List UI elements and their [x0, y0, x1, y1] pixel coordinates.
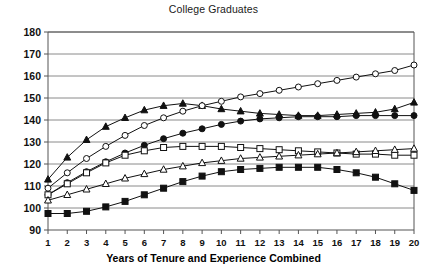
x-tick-label: 9 [199, 237, 204, 248]
x-tick-label: 3 [84, 237, 89, 248]
data-series-layer [45, 62, 418, 217]
x-tick-label: 6 [142, 237, 147, 248]
data-point-marker [411, 152, 417, 158]
data-point-marker [180, 179, 186, 185]
series-filled-triangle [45, 99, 418, 182]
data-point-marker [392, 181, 398, 187]
data-point-marker [102, 123, 109, 129]
data-point-marker [353, 113, 359, 119]
data-point-marker [45, 211, 51, 217]
data-point-marker [199, 126, 205, 132]
data-point-marker [84, 208, 90, 214]
data-point-marker [257, 116, 263, 122]
data-point-marker [372, 174, 378, 180]
y-tick-label: 170 [23, 48, 41, 60]
data-point-marker [372, 113, 378, 119]
data-point-marker [141, 192, 147, 198]
data-point-marker [257, 165, 263, 171]
y-tick-label: 140 [23, 114, 41, 126]
data-point-marker [161, 115, 167, 121]
data-point-marker [295, 114, 301, 120]
data-point-marker [199, 173, 205, 179]
data-point-marker [45, 185, 51, 191]
x-tick-label: 16 [332, 237, 343, 248]
data-point-marker [122, 132, 128, 138]
x-tick-label: 7 [161, 237, 166, 248]
data-point-marker [179, 100, 186, 106]
data-point-marker [84, 170, 90, 176]
data-point-marker [392, 113, 398, 119]
data-point-marker [141, 148, 147, 154]
data-point-marker [122, 198, 128, 204]
data-point-marker [103, 143, 109, 149]
y-tick-label: 160 [23, 70, 41, 82]
data-point-marker [64, 181, 70, 187]
data-point-marker [103, 160, 109, 166]
data-point-marker [180, 143, 186, 149]
data-point-marker [161, 145, 167, 151]
x-tick-label: 13 [274, 237, 285, 248]
line-chart-plot: 90100110120130140150160170180 1234567891… [0, 0, 427, 267]
data-point-marker [411, 187, 417, 193]
data-point-marker [372, 71, 378, 77]
y-tick-label: 120 [23, 158, 41, 170]
data-point-marker [411, 62, 417, 68]
x-tick-label: 19 [389, 237, 400, 248]
data-point-marker [334, 77, 340, 83]
data-point-marker [238, 94, 244, 100]
x-tick-label: 10 [216, 237, 227, 248]
data-point-marker [218, 169, 224, 175]
data-point-marker [276, 115, 282, 121]
data-point-marker [334, 167, 340, 173]
x-tick-label: 18 [370, 237, 381, 248]
data-point-marker [353, 170, 359, 176]
y-tick-label: 130 [23, 136, 41, 148]
data-point-marker [411, 113, 417, 119]
y-tick-label: 110 [24, 180, 41, 192]
data-point-marker [315, 114, 321, 120]
y-tick-label: 100 [23, 202, 41, 214]
data-point-marker [411, 99, 418, 105]
x-tick-label: 8 [180, 237, 185, 248]
data-point-marker [103, 204, 109, 210]
data-point-marker [276, 164, 282, 170]
x-tick-label: 4 [103, 237, 109, 248]
data-point-marker [180, 130, 186, 136]
y-tick-label: 180 [23, 26, 41, 38]
data-point-marker [218, 121, 224, 127]
data-point-marker [238, 118, 244, 124]
data-point-marker [161, 185, 167, 191]
data-point-marker [257, 91, 263, 97]
x-tick-label: 12 [255, 237, 266, 248]
y-axis-tick-labels: 90100110120130140150160170180 [23, 26, 48, 236]
data-point-marker [141, 123, 147, 129]
x-tick-label: 17 [351, 237, 362, 248]
data-point-marker [218, 98, 224, 104]
x-tick-label: 5 [122, 237, 128, 248]
x-axis-tick-labels: 1234567891011121314151617181920 [45, 237, 419, 248]
x-tick-label: 20 [409, 237, 420, 248]
data-point-marker [238, 145, 244, 151]
data-point-marker [411, 145, 418, 151]
data-point-marker [122, 152, 128, 158]
data-point-marker [315, 164, 321, 170]
series-filled-square [45, 164, 417, 216]
data-point-marker [353, 74, 359, 80]
data-point-marker [276, 87, 282, 93]
data-point-marker [218, 143, 224, 149]
x-axis-title: Years of Tenure and Experience Combined [0, 252, 427, 264]
axes [48, 32, 414, 230]
y-tick-label: 150 [23, 92, 41, 104]
x-tick-label: 15 [312, 237, 323, 248]
data-point-marker [199, 103, 205, 109]
x-tick-label: 2 [65, 237, 70, 248]
gridlines [48, 32, 414, 208]
data-point-marker [257, 146, 263, 152]
data-point-marker [83, 136, 90, 142]
data-point-marker [238, 167, 244, 173]
data-point-marker [199, 143, 205, 149]
data-point-marker [180, 108, 186, 114]
data-point-marker [161, 136, 167, 142]
chart-container: College Graduates 9010011012013014015016… [0, 0, 427, 267]
data-point-marker [334, 114, 340, 120]
